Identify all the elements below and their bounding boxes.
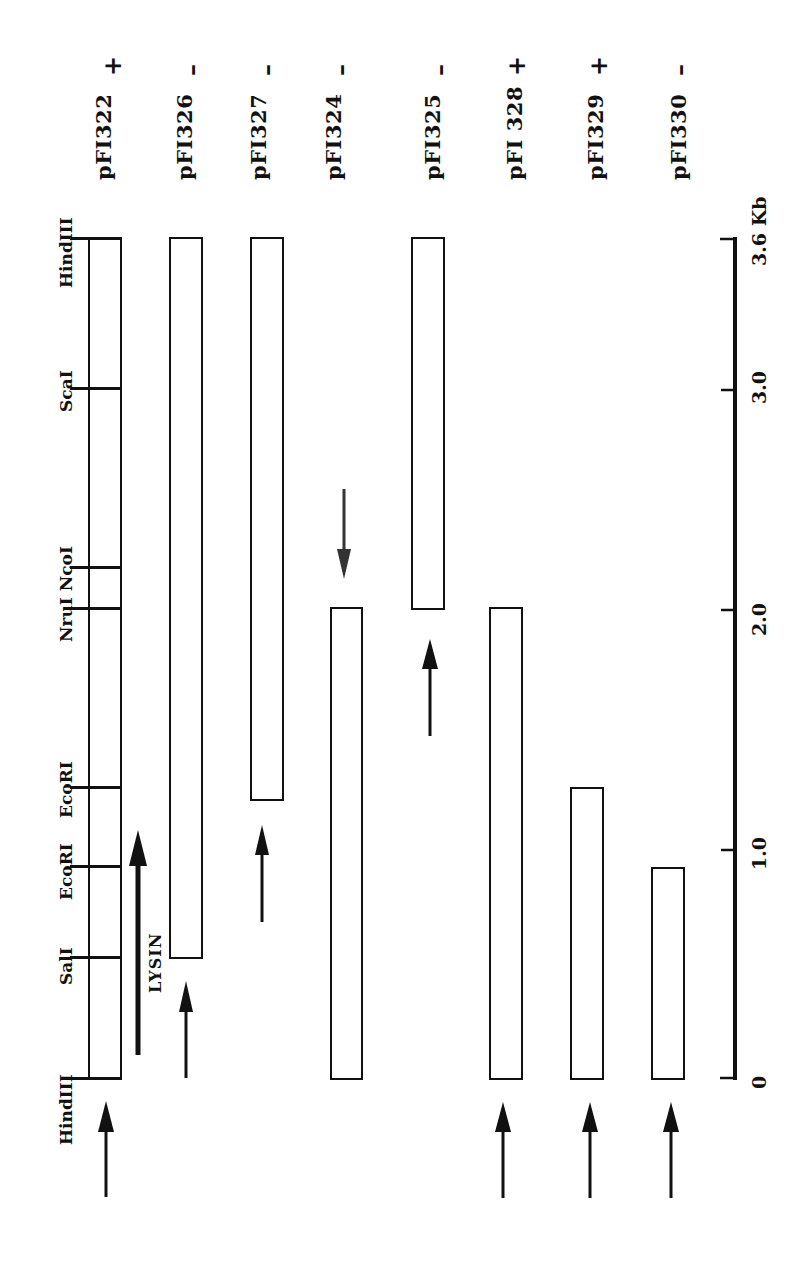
- arrow-up-icon: [422, 639, 438, 736]
- lysin-arrow-icon: [129, 830, 147, 1055]
- arrow-up-icon: [98, 1101, 114, 1197]
- arrows-and-axis: [0, 0, 811, 1277]
- arrow-up-icon: [582, 1102, 598, 1198]
- arrow-up-icon: [179, 981, 193, 1078]
- arrow-down-icon: [337, 489, 351, 579]
- arrow-up-icon: [495, 1102, 511, 1198]
- scale-axis: [720, 237, 737, 1080]
- arrow-up-icon: [663, 1102, 679, 1198]
- restriction-map-figure: pFI322 pFI326 pFI327 pFI324 pFI325 pFI 3…: [0, 0, 811, 1277]
- arrow-up-icon: [255, 825, 269, 922]
